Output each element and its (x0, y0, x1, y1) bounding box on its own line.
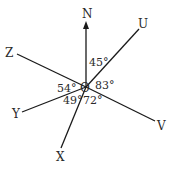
label-o: O (80, 81, 90, 95)
angle-u-v: 83° (95, 79, 115, 92)
label-u: U (138, 17, 148, 31)
label-v: V (156, 119, 166, 133)
angle-v-x: 72° (83, 94, 103, 107)
label-z: Z (5, 46, 13, 60)
angle-diagram: N U V X Y Z O 45° 83° 72° 49° 54° (0, 0, 174, 169)
arrow-n-icon (83, 21, 89, 29)
angle-n-u: 45° (89, 56, 109, 69)
label-n: N (82, 7, 93, 21)
label-y: Y (11, 107, 21, 121)
angle-x-y: 49° (63, 94, 83, 107)
angle-y-z: 54° (57, 82, 77, 95)
label-x: X (56, 150, 65, 164)
